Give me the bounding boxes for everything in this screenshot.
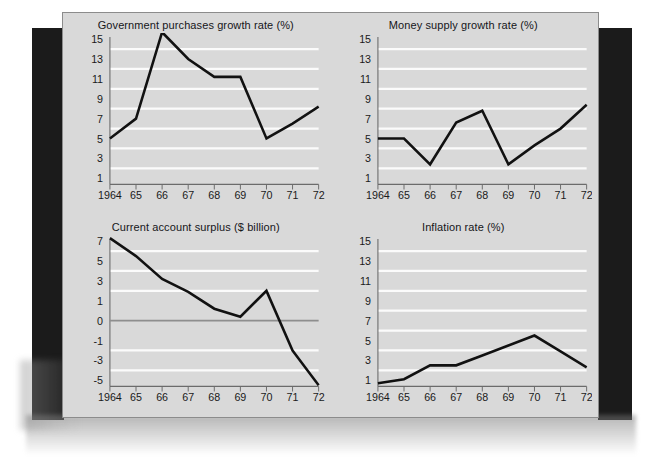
figure-drop-shadow [26,415,636,455]
plot-area: 1513119753119646566676869707172 [67,33,325,211]
svg-text:70: 70 [528,390,540,402]
svg-text:1964: 1964 [365,390,389,402]
svg-text:9: 9 [365,295,371,307]
svg-text:72: 72 [580,390,592,402]
svg-text:15: 15 [91,33,103,45]
svg-text:9: 9 [365,93,371,105]
chart-panel-inflation-rate: Inflation rate (%) 151311975311964656667… [331,215,599,417]
svg-text:67: 67 [450,188,462,200]
svg-text:65: 65 [398,188,410,200]
svg-text:11: 11 [359,73,370,85]
chart-title: Current account surplus ($ billion) [67,219,325,235]
svg-text:66: 66 [424,188,436,200]
chart-panel-money-supply: Money supply growth rate (%) 15131197531… [331,13,599,215]
svg-text:3: 3 [97,152,103,164]
svg-text:70: 70 [261,390,273,402]
svg-text:11: 11 [92,73,103,85]
svg-text:70: 70 [528,188,540,200]
svg-text:72: 72 [313,390,325,402]
svg-text:5: 5 [365,132,371,144]
svg-text:71: 71 [287,188,299,200]
svg-text:15: 15 [359,235,371,247]
svg-text:71: 71 [287,390,299,402]
svg-text:7: 7 [365,112,371,124]
svg-text:3: 3 [365,354,371,366]
scan-edge-bar-right [598,28,632,420]
svg-text:65: 65 [130,390,142,402]
svg-text:13: 13 [91,53,103,65]
plot-area: 75310-1-3-519646566676869707172 [67,235,325,413]
svg-text:67: 67 [182,188,194,200]
svg-text:1: 1 [365,374,371,386]
plot-area: 1513119753119646566676869707172 [335,235,593,413]
svg-text:68: 68 [476,188,488,200]
data-series-line [377,105,586,165]
svg-text:71: 71 [554,188,566,200]
svg-text:67: 67 [182,390,194,402]
svg-text:15: 15 [359,33,371,45]
svg-text:72: 72 [580,188,592,200]
svg-text:1964: 1964 [98,188,122,200]
svg-text:69: 69 [502,188,514,200]
svg-text:1: 1 [97,172,103,184]
chart-title: Money supply growth rate (%) [335,17,593,33]
svg-text:66: 66 [424,390,436,402]
svg-text:66: 66 [156,188,168,200]
svg-text:1964: 1964 [365,188,389,200]
line-chart-svg: 1513119753119646566676869707172 [67,33,325,211]
svg-text:7: 7 [97,235,103,247]
svg-text:66: 66 [156,390,168,402]
line-chart-svg: 1513119753119646566676869707172 [335,33,593,211]
svg-text:0: 0 [97,314,103,326]
svg-text:65: 65 [398,390,410,402]
svg-text:70: 70 [261,188,273,200]
line-chart-svg: 75310-1-3-519646566676869707172 [67,235,325,413]
svg-text:68: 68 [208,188,220,200]
svg-text:5: 5 [97,132,103,144]
svg-text:69: 69 [234,390,246,402]
svg-text:68: 68 [208,390,220,402]
data-series-line [110,238,319,385]
plot-area: 1513119753119646566676869707172 [335,33,593,211]
svg-text:72: 72 [313,188,325,200]
svg-text:5: 5 [365,334,371,346]
svg-text:67: 67 [450,390,462,402]
svg-text:-3: -3 [94,354,104,366]
svg-text:1: 1 [97,295,103,307]
svg-text:69: 69 [234,188,246,200]
svg-text:1964: 1964 [98,390,122,402]
svg-text:71: 71 [554,390,566,402]
chart-panel-current-account-surplus: Current account surplus ($ billion) 7531… [63,215,331,417]
page-root: Government purchases growth rate (%) 151… [0,0,659,457]
svg-text:68: 68 [476,390,488,402]
svg-text:-1: -1 [94,334,104,346]
chart-title: Inflation rate (%) [335,219,593,235]
data-series-line [377,336,586,384]
svg-text:9: 9 [97,93,103,105]
chart-title: Government purchases growth rate (%) [67,17,325,33]
line-chart-svg: 1513119753119646566676869707172 [335,235,593,413]
svg-text:7: 7 [97,112,103,124]
figure-panel-grid: Government purchases growth rate (%) 151… [62,12,599,418]
svg-text:13: 13 [359,53,371,65]
svg-text:13: 13 [359,255,371,267]
chart-panel-government-purchases: Government purchases growth rate (%) 151… [63,13,331,215]
svg-text:5: 5 [97,255,103,267]
svg-text:65: 65 [130,188,142,200]
svg-text:69: 69 [502,390,514,402]
svg-text:1: 1 [365,172,371,184]
svg-text:3: 3 [97,275,103,287]
svg-text:11: 11 [359,275,370,287]
svg-text:3: 3 [365,152,371,164]
svg-text:7: 7 [365,314,371,326]
svg-text:-5: -5 [94,374,104,386]
